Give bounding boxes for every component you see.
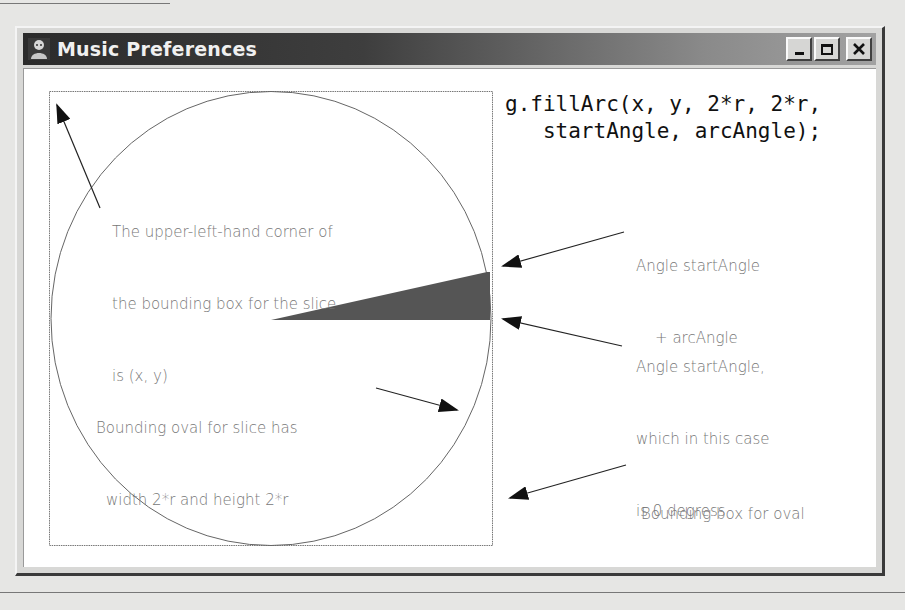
annotation-start-angle-line-2: which in this case (636, 427, 770, 451)
annotation-oval: Bounding oval for slice has width 2*r an… (96, 368, 297, 536)
annotation-upper-left-line-2: the bounding box for the slice (112, 292, 336, 316)
arrow-box (510, 465, 626, 498)
annotation-end-angle-line-1: Angle startAngle (636, 254, 760, 278)
page-rule-bottom (0, 592, 905, 593)
annotation-oval-line-1: Bounding oval for slice has (96, 416, 297, 440)
arrow-oval (376, 388, 457, 410)
annotation-box-line-1: Bounding box for oval (641, 502, 805, 526)
annotation-oval-line-2: width 2*r and height 2*r (96, 488, 297, 512)
annotation-upper-left-line-1: The upper-left-hand corner of (112, 220, 336, 244)
annotation-start-angle-line-1: Angle startAngle, (636, 355, 770, 379)
arrow-start-angle (503, 319, 622, 346)
code-line-2: startAngle, arcAngle); (505, 118, 821, 145)
annotation-box: Bounding box for oval (641, 454, 805, 550)
arrow-upper-left (57, 105, 100, 208)
code-line-1: g.fillArc(x, y, 2*r, 2*r, (505, 91, 821, 118)
arrow-end-angle (503, 232, 624, 266)
code-snippet: g.fillArc(x, y, 2*r, 2*r, startAngle, ar… (505, 91, 821, 145)
